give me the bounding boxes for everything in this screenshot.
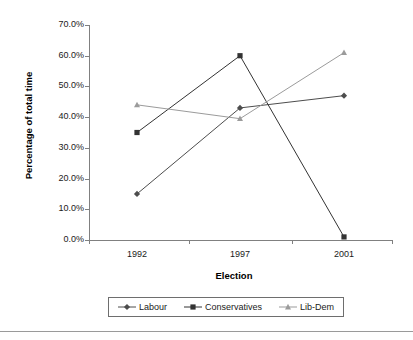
square-marker-icon [184, 302, 202, 312]
data-point-marker [134, 130, 139, 135]
legend-label: Lib-Dem [300, 302, 334, 312]
chart-figure: Percentage of total time 0.0%10.0%20.0%3… [0, 0, 413, 340]
data-point-marker [341, 49, 347, 55]
data-point-marker [341, 93, 347, 99]
legend-entry[interactable]: Conservatives [184, 302, 262, 312]
data-point-marker [134, 102, 140, 108]
data-point-marker [190, 304, 195, 309]
data-point-marker [341, 234, 346, 239]
data-point-marker [124, 304, 130, 310]
plot-area [0, 0, 413, 340]
triangle-marker-icon [279, 302, 297, 312]
legend-label: Conservatives [205, 302, 262, 312]
bottom-divider [0, 331, 413, 332]
series-conservatives [134, 53, 346, 239]
series-line [137, 56, 344, 237]
legend-label: Labour [139, 302, 167, 312]
diamond-marker-icon [118, 302, 136, 312]
legend-entry[interactable]: Labour [118, 302, 167, 312]
legend-entry[interactable]: Lib-Dem [279, 302, 334, 312]
data-point-marker [237, 53, 242, 58]
data-series-group [134, 49, 347, 239]
series-labour [134, 93, 347, 197]
chart-legend: LabourConservativesLib-Dem [108, 297, 344, 317]
